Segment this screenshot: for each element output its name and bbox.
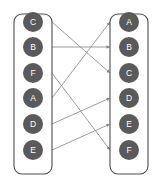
edges-layer — [52, 22, 110, 150]
source-node-c[interactable]: C — [23, 12, 43, 32]
target-node-f[interactable]: F — [119, 140, 139, 160]
source-node-d[interactable]: D — [23, 114, 43, 134]
edge-c-to-c — [52, 22, 110, 73]
node-circle — [119, 114, 139, 134]
node-circle — [23, 88, 43, 108]
target-node-a[interactable]: A — [119, 12, 139, 32]
edge-d-to-d — [52, 98, 110, 124]
source-node-f[interactable]: F — [23, 63, 43, 83]
target-node-e[interactable]: E — [119, 114, 139, 134]
node-circle — [23, 140, 43, 160]
edge-f-to-f — [52, 73, 110, 150]
node-circle — [119, 63, 139, 83]
node-circle — [23, 114, 43, 134]
edge-a-to-a — [52, 22, 110, 98]
bipartite-mapping-diagram: CBFADEABCDEF — [0, 0, 162, 185]
node-circle — [23, 63, 43, 83]
target-node-b[interactable]: B — [119, 37, 139, 57]
target-node-d[interactable]: D — [119, 88, 139, 108]
target-node-c[interactable]: C — [119, 63, 139, 83]
node-circle — [119, 12, 139, 32]
source-node-a[interactable]: A — [23, 88, 43, 108]
source-node-e[interactable]: E — [23, 140, 43, 160]
node-circle — [119, 88, 139, 108]
node-circle — [119, 37, 139, 57]
node-circle — [119, 140, 139, 160]
node-circle — [23, 12, 43, 32]
graph-canvas: CBFADEABCDEF — [0, 0, 162, 185]
source-node-b[interactable]: B — [23, 37, 43, 57]
node-circle — [23, 37, 43, 57]
edge-e-to-e — [52, 124, 110, 150]
